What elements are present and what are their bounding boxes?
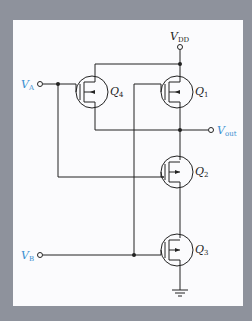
vout-label: Vout — [217, 124, 237, 138]
vb-label: VB — [21, 249, 34, 263]
circuit-schematic: VDD VA VB Vout Q4 Q1 Q2 Q3 — [0, 0, 252, 321]
q1-label: Q1 — [195, 85, 209, 99]
vdd-label: VDD — [170, 30, 190, 44]
q2-label: Q2 — [195, 165, 209, 179]
q4-label: Q4 — [110, 85, 124, 99]
q3-label: Q3 — [195, 243, 209, 257]
va-label: VA — [21, 78, 35, 92]
